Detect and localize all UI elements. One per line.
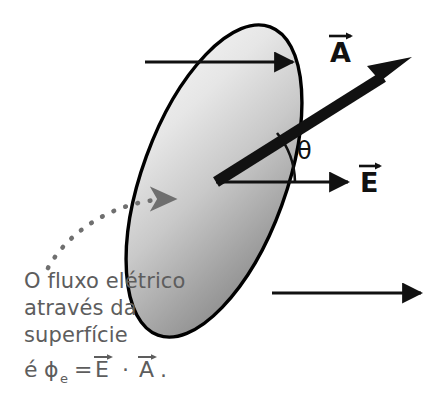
figure-root: A E θ O fluxo elétrico através da superf… — [0, 0, 437, 403]
caption-line-3: superfície — [24, 323, 128, 347]
formula-equals: = — [74, 357, 92, 382]
formula-dot-operator: · — [122, 357, 129, 382]
electric-flux-diagram: A E θ O fluxo elétrico através da superf… — [0, 0, 437, 403]
formula-left-operand-text: E — [95, 357, 109, 382]
caption-line-2: através da — [24, 296, 137, 320]
angle-label-text: θ — [297, 137, 312, 165]
field-vector-label: E — [359, 163, 382, 198]
field-vector-label-text: E — [360, 167, 378, 198]
formula-phi-symbol: ϕ — [44, 357, 59, 382]
flux-formula: é ϕ e = E · A . — [24, 354, 167, 386]
formula-phi-subscript: e — [60, 371, 68, 386]
formula-right-operand-text: A — [139, 357, 154, 382]
formula-left-operand: E — [94, 354, 113, 382]
caption-line-1: O fluxo elétrico — [24, 269, 185, 293]
formula-prefix: é — [24, 357, 38, 382]
formula-right-operand: A — [138, 354, 157, 382]
formula-terminator: . — [160, 357, 167, 382]
area-vector-label: A — [329, 33, 353, 68]
area-vector-label-text: A — [330, 37, 351, 68]
